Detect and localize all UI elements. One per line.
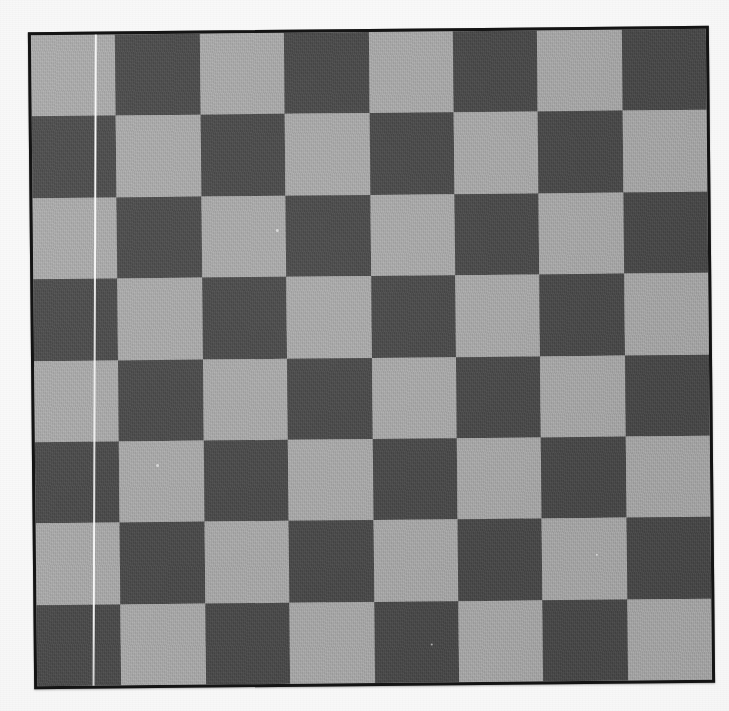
board-square-r7-c2 (120, 522, 205, 604)
board-square-r1-c8 (621, 29, 706, 111)
board-square-r8-c3 (205, 602, 290, 684)
board-square-r6-c7 (541, 436, 626, 518)
board-square-r5-c4 (287, 358, 372, 440)
board-square-r4-c1 (33, 279, 118, 361)
board-square-r4-c5 (371, 275, 456, 357)
board-square-r7-c1 (36, 523, 121, 605)
board-square-r4-c3 (202, 277, 287, 359)
board-square-r8-c2 (121, 603, 206, 685)
board-square-r5-c2 (118, 359, 203, 441)
board-square-r7-c4 (289, 520, 374, 602)
board-square-r5-c8 (625, 354, 710, 436)
board-square-r5-c6 (456, 356, 541, 438)
board-square-r2-c4 (285, 113, 370, 195)
board-square-r5-c5 (372, 357, 457, 439)
board-square-r7-c7 (542, 518, 627, 600)
board-square-r2-c6 (454, 112, 539, 194)
board-square-r8-c7 (543, 599, 628, 681)
board-square-r8-c4 (289, 602, 374, 684)
board-square-r3-c8 (623, 192, 708, 274)
board-square-r8-c6 (458, 600, 543, 682)
board-square-r2-c8 (622, 110, 707, 192)
board-square-r3-c4 (286, 195, 371, 277)
board-square-r2-c1 (32, 116, 117, 198)
board-square-r7-c6 (457, 519, 542, 601)
board-square-r7-c8 (626, 517, 711, 599)
board-square-r3-c5 (370, 194, 455, 276)
board-square-r6-c2 (119, 440, 204, 522)
board-square-r4-c8 (624, 273, 709, 355)
board-square-r5-c7 (540, 355, 625, 437)
board-square-r5-c3 (203, 358, 288, 440)
board-square-r2-c2 (116, 115, 201, 197)
board-square-r1-c2 (115, 34, 200, 116)
board-square-r1-c1 (31, 34, 116, 116)
board-square-r6-c8 (625, 436, 710, 518)
board-square-r4-c4 (286, 276, 371, 358)
board-square-r4-c2 (118, 278, 203, 360)
board-square-r6-c5 (372, 438, 457, 520)
board-square-r6-c4 (288, 439, 373, 521)
board-square-r6-c3 (204, 440, 289, 522)
board-square-r3-c7 (539, 192, 624, 274)
board-square-r1-c5 (368, 31, 453, 113)
board-square-r1-c7 (537, 30, 622, 112)
board-square-r8-c1 (36, 604, 121, 686)
board-square-r6-c1 (35, 441, 120, 523)
board-square-r1-c4 (284, 32, 369, 114)
board-square-r2-c3 (200, 114, 285, 196)
board-square-r1-c6 (453, 30, 538, 112)
photo-canvas (0, 0, 729, 711)
checkerboard-frame (28, 26, 715, 690)
board-square-r6-c6 (457, 437, 542, 519)
board-square-r3-c6 (454, 193, 539, 275)
board-square-r3-c2 (117, 196, 202, 278)
board-square-r7-c3 (204, 521, 289, 603)
board-square-r3-c1 (32, 197, 117, 279)
board-square-r4-c7 (539, 274, 624, 356)
board-square-r3-c3 (201, 196, 286, 278)
board-square-r1-c3 (200, 33, 285, 115)
board-square-r7-c5 (373, 519, 458, 601)
board-square-r2-c7 (538, 111, 623, 193)
board-square-r8-c5 (374, 601, 459, 683)
board-square-r8-c8 (627, 598, 712, 680)
board-square-r5-c1 (34, 360, 119, 442)
board-square-r2-c5 (369, 113, 454, 195)
board-square-r4-c6 (455, 275, 540, 357)
checkerboard (28, 26, 715, 690)
checkerboard-grid (31, 29, 712, 686)
